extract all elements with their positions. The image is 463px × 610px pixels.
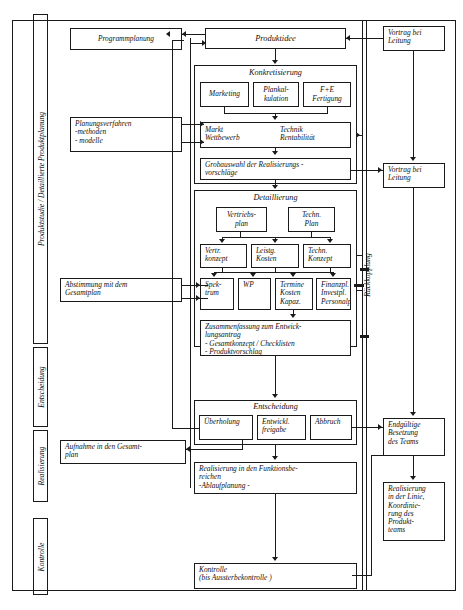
arrow-bus-vertr	[219, 239, 225, 243]
arrow-row3-zusammenfassung	[290, 314, 296, 318]
box-markt-wettbewerb-label: Markt Wettbewerb	[205, 126, 240, 143]
box-abbruch: Abbruch	[310, 415, 352, 440]
box-aufnahme: Aufnahme in den Gesamt- plan	[60, 440, 186, 464]
box-endgueltige-besetzung-label: Endgültige Besetzung des Teams	[388, 421, 420, 446]
conn-vortrag2-endgueltige	[413, 188, 414, 413]
phase-label-produktstudie-text: Produktstudie / Detaillierte Produktplan…	[36, 112, 45, 246]
phase-label-entscheidung-text: Entscheidung	[36, 366, 45, 407]
box-plankalkulation-label: Plankal- kulation	[263, 86, 288, 103]
phase-label-produktstudie: Produktstudie / Detaillierte Produktplan…	[33, 14, 48, 344]
conn-zusammenfassung-entscheidung	[275, 356, 276, 395]
arrow-bus-finanzpl	[330, 273, 336, 277]
tap-technkonzept-feedback	[357, 255, 363, 256]
outer-return-line	[455, 20, 456, 590]
box-zusammenfassung-label: Zusammenfassung zum Entwick- lungsantrag…	[205, 323, 302, 356]
box-abbruch-label: Abbruch	[315, 418, 340, 426]
feedback-label: Rückkopplung	[360, 215, 374, 335]
box-finanzpl-investpl-personalpl-label: Finanzpl. Investpl. Personalpl.	[321, 281, 351, 306]
box-technik-rentabilitaet-label: Technik Rentabilität	[280, 126, 315, 143]
conn-vortrag1-vortrag2	[413, 51, 414, 158]
box-planungsverfahren-label: Planungsverfahren -methoden - modelle	[75, 120, 131, 145]
arrow-feedback-top-left	[166, 31, 170, 37]
conn-ueberholung-up	[172, 40, 173, 428]
box-vertriebsplan: Vertriebs- plan	[216, 207, 267, 232]
box-produktidee-label: Produktidee	[255, 34, 296, 43]
arrow-endgueltige-realisierung-linie	[410, 476, 416, 480]
box-entwicklfreigabe: Entwickl. freigabe	[257, 415, 306, 440]
box-vertriebsplan-label: Vertriebs- plan	[227, 211, 256, 228]
outer-left-line	[12, 20, 13, 590]
phase-label-kontrolle-text: Kontrolle	[36, 542, 45, 571]
box-entwicklfreigabe-label: Entwickl. freigabe	[262, 418, 290, 435]
arrow-bus-termine	[290, 273, 296, 277]
conn-ueberholung-down	[242, 440, 243, 450]
box-termine-kosten-kapaz: Termine Kosten Kapaz.	[275, 278, 313, 310]
box-wp: WP	[238, 278, 271, 310]
conn-kontrolle-to-realisierung-linie	[371, 455, 383, 456]
arrow-entscheidung-realisierung	[272, 456, 278, 460]
arrow-bus-wp	[250, 273, 256, 277]
box-technplan: Techn. Plan	[288, 207, 335, 232]
box-endgueltige-besetzung: Endgültige Besetzung des Teams	[383, 418, 445, 456]
box-grobauswahl-label: Grobauswahl der Realisierungs - vorschlä…	[205, 161, 303, 178]
arrow-zusammenfassung-entscheidung	[272, 394, 278, 398]
phase-label-realisierung: Realisierung	[33, 430, 48, 502]
box-produktidee: Produktidee	[205, 28, 346, 49]
arrow-bus-to-produktidee	[202, 40, 206, 46]
box-vortrag-leitung-2-label: Vortrag bei Leitung	[388, 166, 421, 183]
phase-label-entscheidung: Entscheidung	[33, 347, 48, 427]
arrow-grobauswahl-detaillierung	[272, 185, 278, 189]
left-bus-line	[190, 38, 191, 488]
feedback-junction-3	[354, 284, 364, 287]
group-detaillierung-header: Detaillierung	[194, 193, 357, 202]
conn-ueberholung-to-top	[172, 40, 184, 41]
arrow-to-programmplanung	[182, 31, 186, 37]
feedback-junction-1	[360, 268, 369, 271]
diagram-canvas: Produktstudie / Detaillierte Produktplan…	[0, 0, 463, 610]
conn-abstimmung-detail-2	[182, 298, 208, 299]
arrow-produktidee-konkretisierung	[272, 60, 278, 64]
phase-label-realisierung-text: Realisierung	[36, 447, 45, 486]
box-finanzpl-investpl-personalpl: Finanzpl. Investpl. Personalpl.	[316, 278, 351, 310]
conn-entscheidung-aufnahme	[186, 449, 242, 450]
arrow-grobauswahl-vortrag2	[378, 167, 382, 173]
outer-bottom-line	[12, 590, 456, 591]
box-realisierung-funktionsbereiche: Realisierung in den Funktionsbe- reichen…	[194, 462, 357, 494]
arrow-bus-leistg	[272, 239, 278, 243]
box-plankalkulation: Plankal- kulation	[253, 82, 299, 107]
box-aufnahme-label: Aufnahme in den Gesamt- plan	[65, 443, 142, 460]
box-leistg-kosten: Leistg. Kosten	[251, 244, 299, 268]
arrow-markt-grobauswahl	[272, 151, 278, 155]
box-vortrag-leitung-1: Vortrag bei Leitung	[383, 26, 445, 51]
box-programmplanung-label: Programmplanung	[98, 35, 154, 43]
box-leistg-kosten-label: Leistg. Kosten	[256, 247, 277, 264]
conn-produktidee-vortrag1	[346, 38, 384, 39]
arrow-abstimmung-detail-2	[196, 295, 200, 301]
conn-realisierung-kontrolle	[275, 494, 276, 558]
feedback-junction-2	[360, 335, 369, 338]
box-marketing: Marketing	[200, 82, 249, 107]
conn-abstimmung-detail	[182, 285, 208, 286]
group-konkretisierung-header: Konkretisierung	[194, 68, 357, 77]
box-marketing-label: Marketing	[209, 90, 240, 98]
conn-det-row1-bus	[222, 237, 330, 238]
box-termine-kosten-kapaz-label: Termine Kosten Kapaz.	[280, 281, 304, 306]
box-wp-label: WP	[243, 281, 254, 289]
box-realisierung-funktionsbereiche-label: Realisierung in den Funktionsbe- reichen…	[199, 465, 298, 490]
box-fe-fertigung-label: F+E Fertigung	[312, 86, 342, 103]
outer-top-line	[12, 20, 456, 21]
conn-kontrolle-return-up	[371, 455, 372, 576]
arrow-entscheidung-endgueltige	[378, 424, 382, 430]
box-kontrolle: Kontrolle (bis Aussterbekontrolle )	[194, 563, 357, 589]
box-spektrum-label: Spek- trum	[205, 281, 221, 298]
conn-det-row2-bus	[214, 272, 334, 273]
box-abstimmung: Abstimmung mit dem Gesamtplan	[60, 278, 182, 302]
box-zusammenfassung: Zusammenfassung zum Entwick- lungsantrag…	[200, 320, 351, 356]
arrow-vortrag1-vortrag2	[410, 157, 416, 161]
arrow-realisierung-kontrolle	[272, 557, 278, 561]
box-realisierung-linie-label: Realisierung in der Linie, Koordinie- ru…	[388, 485, 426, 535]
conn-konkret-merge	[224, 113, 328, 114]
tap-finanzpl-feedback	[357, 290, 363, 291]
arrow-entscheidung-aufnahme	[186, 446, 190, 452]
box-planungsverfahren: Planungsverfahren -methoden - modelle	[70, 117, 182, 152]
